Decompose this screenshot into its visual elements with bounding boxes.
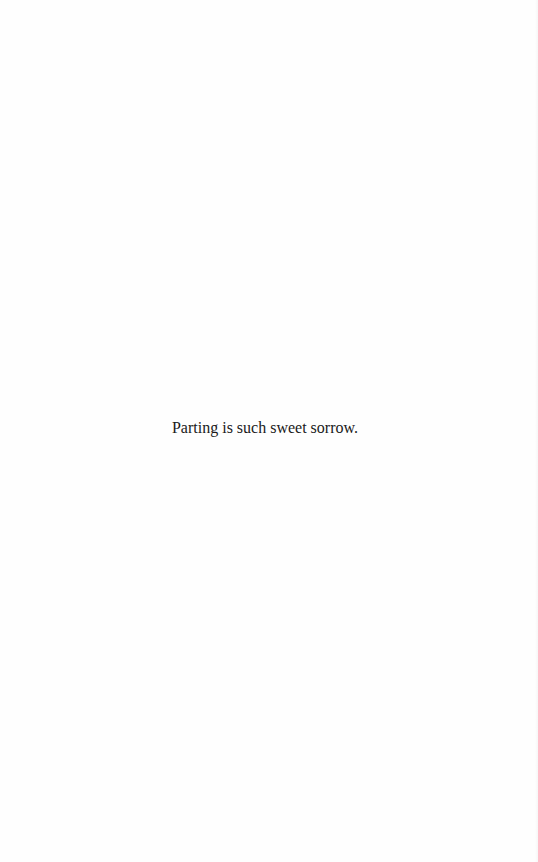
document-page: Parting is such sweet sorrow.	[0, 0, 538, 862]
body-text: Parting is such sweet sorrow.	[0, 418, 530, 438]
